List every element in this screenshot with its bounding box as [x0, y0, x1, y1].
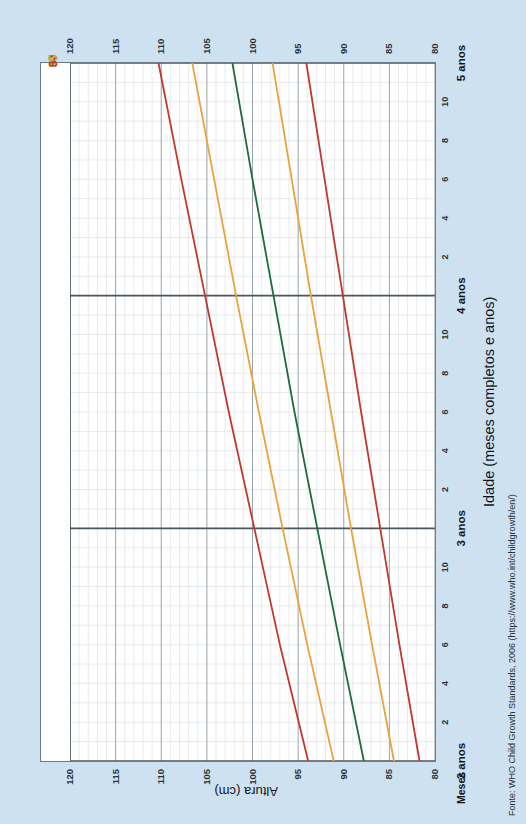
y-axis-title: Altura (cm) — [214, 785, 278, 798]
x-month-tick-1-2: 2 — [441, 481, 450, 499]
y-tick-right-80: 80 — [430, 28, 440, 54]
months-caption: Meses — [456, 772, 467, 804]
y-tick-105: 105 — [202, 769, 212, 795]
chart-grid-and-curves — [41, 63, 435, 761]
y-tick-right-105: 105 — [202, 28, 212, 54]
x-month-tick-1-6: 6 — [441, 403, 450, 421]
x-month-tick-2-10: 10 — [441, 93, 450, 111]
y-tick-110: 110 — [156, 769, 166, 795]
x-month-tick-2-2: 2 — [441, 248, 450, 266]
y-tick-right-100: 100 — [248, 28, 258, 54]
source-citation: Fonte: WHO Child Growth Standards, 2006 … — [508, 494, 517, 816]
y-tick-right-90: 90 — [339, 28, 349, 54]
y-tick-115: 115 — [111, 769, 121, 795]
x-year-label-5-anos: 5 anos — [456, 39, 468, 87]
percentile-label-band — [40, 62, 70, 762]
x-month-tick-0-4: 4 — [441, 674, 450, 692]
x-month-tick-0-6: 6 — [441, 636, 450, 654]
y-tick-120: 120 — [65, 769, 75, 795]
y-tick-85: 85 — [384, 769, 394, 795]
x-axis-title: Idade (meses completos e anos) — [482, 297, 497, 507]
x-month-tick-2-4: 4 — [441, 209, 450, 227]
x-month-tick-1-8: 8 — [441, 364, 450, 382]
y-tick-95: 95 — [293, 769, 303, 795]
y-tick-80: 80 — [430, 769, 440, 795]
y-tick-90: 90 — [339, 769, 349, 795]
x-month-tick-2-8: 8 — [441, 132, 450, 150]
growth-chart: 978550153 12011511010510095908580 120115… — [0, 0, 526, 824]
x-month-tick-1-10: 10 — [441, 325, 450, 343]
y-tick-right-115: 115 — [111, 28, 121, 54]
y-tick-right-110: 110 — [156, 28, 166, 54]
plot-area — [40, 62, 436, 762]
rotated-chart-wrapper: 978550153 12011511010510095908580 120115… — [0, 0, 526, 824]
percentile-label-3: 3 — [48, 61, 59, 67]
y-tick-right-120: 120 — [65, 28, 75, 54]
x-year-label-3-anos: 3 anos — [456, 504, 468, 552]
y-tick-right-95: 95 — [293, 28, 303, 54]
x-month-tick-0-2: 2 — [441, 713, 450, 731]
x-month-tick-1-4: 4 — [441, 442, 450, 460]
x-month-tick-0-8: 8 — [441, 597, 450, 615]
x-month-tick-2-6: 6 — [441, 170, 450, 188]
x-year-label-4-anos: 4 anos — [456, 272, 468, 320]
y-tick-right-85: 85 — [384, 28, 394, 54]
scanned-page: 978550153 12011511010510095908580 120115… — [0, 0, 526, 824]
x-month-tick-0-10: 10 — [441, 558, 450, 576]
